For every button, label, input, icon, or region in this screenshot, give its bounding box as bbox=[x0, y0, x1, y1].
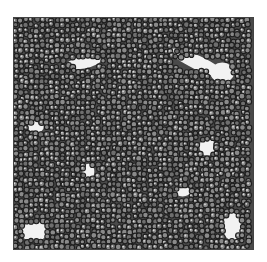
micrograph-image bbox=[13, 17, 254, 250]
cell-texture bbox=[14, 18, 253, 249]
